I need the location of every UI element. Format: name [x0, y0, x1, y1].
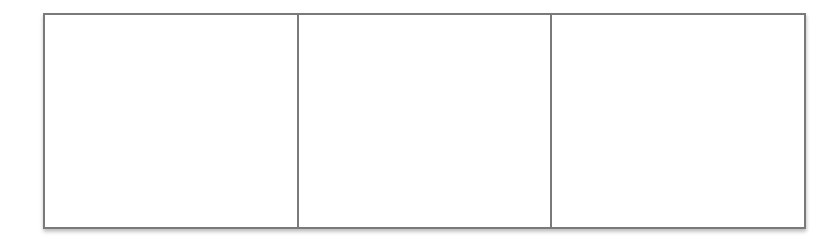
- panel-2: [297, 15, 551, 227]
- panel-1: [45, 15, 297, 227]
- three-panel-strip: [43, 13, 806, 229]
- panel-3: [550, 15, 804, 227]
